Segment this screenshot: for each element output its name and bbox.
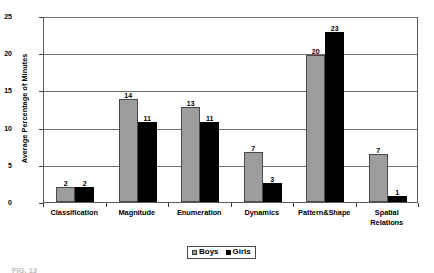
x-category-label-line: Classification (43, 208, 106, 218)
bar-girls: 11 (200, 122, 219, 202)
bar-girls: 3 (263, 183, 282, 202)
legend-label: Boys (199, 248, 219, 256)
chart-legend: BoysGirls (187, 246, 256, 259)
bar-girls: 2 (75, 187, 94, 202)
bar-boys: 2 (56, 187, 75, 202)
x-category-label-line: Dynamics (231, 208, 294, 218)
y-tick-label-20: 20 (0, 50, 12, 57)
bar-boys: 13 (181, 107, 200, 202)
x-category-label: Magnitude (106, 208, 169, 218)
bar-group: 1411 (107, 18, 170, 202)
bar-value-label: 3 (270, 176, 274, 183)
y-axis-title: Average Percentage of Minutes (20, 9, 29, 209)
bar-girls: 11 (138, 122, 157, 202)
bar-value-label: 2 (64, 180, 68, 187)
bar-group: 1311 (169, 18, 232, 202)
bar-value-label: 7 (251, 145, 255, 152)
bar-value-label: 7 (376, 147, 380, 154)
x-tick-mark (356, 203, 357, 207)
x-category-label: SpatialRelations (356, 208, 419, 227)
x-category-label: Classification (43, 208, 106, 218)
y-tick-label-5: 5 (0, 162, 12, 169)
x-category-label-line: Spatial (356, 208, 419, 218)
bar-girls: 23 (325, 32, 344, 202)
bar-value-label: 20 (312, 48, 320, 55)
y-tick-label-25: 25 (0, 13, 12, 20)
bar-value-label: 14 (124, 92, 132, 99)
legend-label: Girls (233, 248, 251, 256)
bar-value-label: 11 (144, 115, 151, 122)
legend-swatch-icon (226, 250, 231, 255)
x-tick-mark (418, 203, 419, 207)
x-category-label: Pattern&Shape (293, 208, 356, 218)
bar-group: 73 (232, 18, 295, 202)
legend-swatch-icon (192, 250, 197, 255)
bar-boys: 7 (244, 152, 263, 202)
x-category-label-line: Relations (356, 218, 419, 228)
figure-caption: FIG. 13 (12, 266, 37, 273)
y-tick-label-0: 0 (0, 199, 12, 206)
y-tick-label-15: 15 (0, 87, 12, 94)
bar-value-label: 2 (83, 180, 87, 187)
x-category-label: Enumeration (168, 208, 231, 218)
bar-group: 2023 (294, 18, 357, 202)
y-tick-label-10: 10 (0, 125, 12, 132)
bar-boys: 7 (369, 154, 388, 202)
x-tick-mark (106, 203, 107, 207)
legend-item-boys: Boys (192, 248, 219, 256)
plot-area: 221411131173202371 (43, 17, 418, 203)
x-tick-mark (293, 203, 294, 207)
bar-group: 22 (44, 18, 107, 202)
bar-value-label: 11 (206, 115, 213, 122)
bar-value-label: 1 (395, 189, 399, 196)
x-tick-mark (43, 203, 44, 207)
bar-girls: 1 (388, 196, 407, 202)
bar-value-label: 23 (331, 25, 339, 32)
x-tick-mark (231, 203, 232, 207)
x-tick-mark (168, 203, 169, 207)
x-category-label: Dynamics (231, 208, 294, 218)
bar-boys: 20 (306, 55, 325, 202)
bar-value-label: 13 (187, 100, 195, 107)
x-category-label-line: Magnitude (106, 208, 169, 218)
figure-bar-chart: Average Percentage of Minutes 0510152025… (0, 0, 434, 273)
legend-item-girls: Girls (226, 248, 251, 256)
x-category-label-line: Pattern&Shape (293, 208, 356, 218)
bar-boys: 14 (119, 99, 138, 202)
x-category-label-line: Enumeration (168, 208, 231, 218)
bar-group: 71 (357, 18, 420, 202)
